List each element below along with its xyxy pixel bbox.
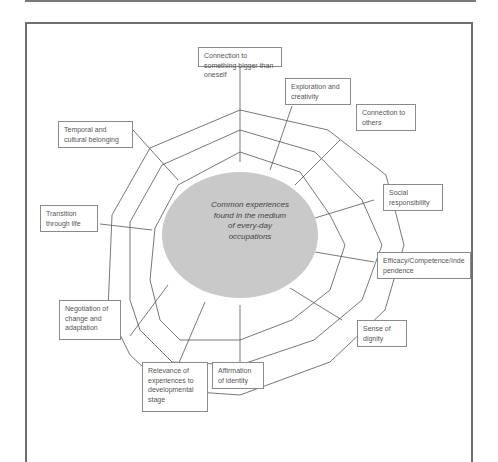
label-connection-others: Connection to others [356,104,416,131]
label-temporal: Temporal and cultural belonging [58,121,133,148]
label-relevance: Relevance of experiences to developmenta… [142,362,208,412]
label-social-responsibility: Social responsibility [383,184,443,211]
hub-line: occupations [190,232,310,243]
center-hub-text: Common experiences found in the medium o… [190,200,310,242]
hub-line: of every-day [190,221,310,232]
label-efficacy: Efficacy/Competence/Independence [377,252,471,279]
label-connection-bigger: Connection to something bigger than ones… [198,47,282,67]
hub-line: Common experiences [190,200,310,211]
hub-line: found in the medium [190,211,310,222]
label-dignity: Sense of dignity [357,320,407,347]
label-exploration: Exploration and creativity [285,78,351,105]
label-transition: Transition through life [40,205,98,232]
label-identity: Affirmation of identity [212,362,264,389]
label-negotiation: Negotiation of change and adaptation [59,300,121,340]
